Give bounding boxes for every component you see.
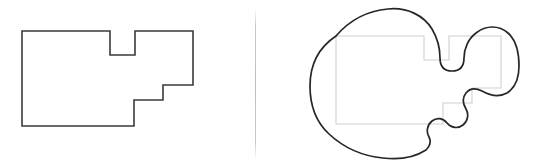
- left-polygon-svg: [0, 0, 255, 167]
- right-blob-svg: [266, 0, 533, 167]
- figure-root: [0, 0, 533, 167]
- underlying-polygon-guide-path: [336, 36, 501, 124]
- left-panel-rectilinear-polygon: [0, 0, 255, 167]
- right-panel-smoothed-blob: [266, 0, 533, 167]
- rectilinear-polygon-path: [22, 31, 193, 126]
- vertical-divider: [255, 8, 256, 160]
- smoothed-blob-outline-path: [310, 9, 519, 159]
